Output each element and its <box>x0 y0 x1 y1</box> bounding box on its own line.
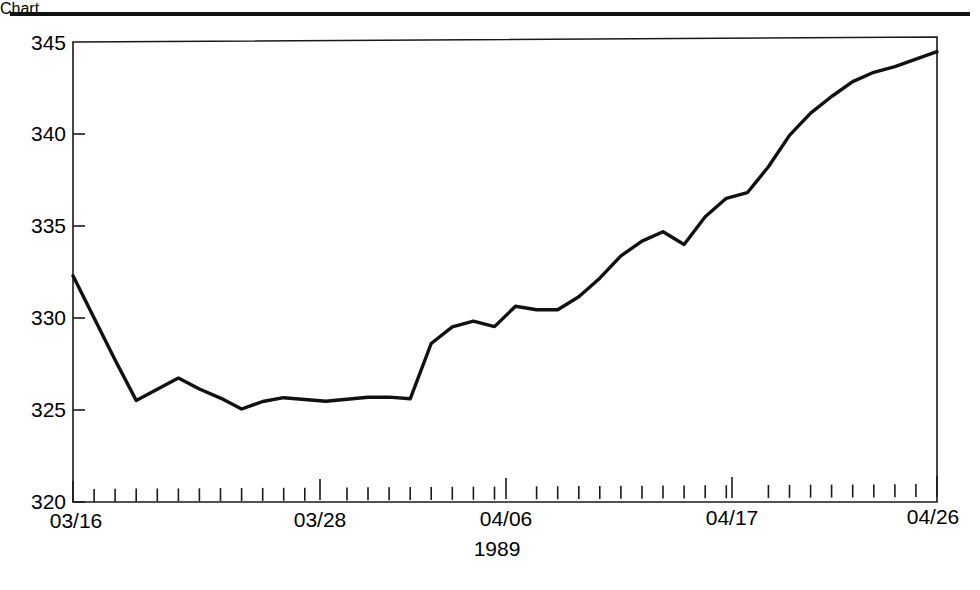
plot-frame <box>73 37 937 502</box>
y-axis-ticks <box>73 134 85 502</box>
x-axis-caption: 1989 <box>474 537 521 560</box>
y-tick-label: 345 <box>31 31 66 54</box>
x-axis-minor-ticks <box>94 484 916 502</box>
figure-container: 345 340 335 330 325 320 03/16 03/28 04/0… <box>0 0 980 590</box>
x-tick-label: 04/26 <box>907 505 960 528</box>
x-tick-label: 04/06 <box>480 507 533 530</box>
x-tick-label: 04/17 <box>706 506 759 529</box>
x-axis-major-ticks <box>73 476 937 502</box>
line-chart: 345 340 335 330 325 320 03/16 03/28 04/0… <box>0 0 980 590</box>
y-tick-label: 330 <box>31 306 66 329</box>
x-tick-label: 03/28 <box>294 508 347 531</box>
y-axis-tick-labels: 345 340 335 330 325 320 <box>31 31 66 513</box>
x-axis-tick-labels: 03/16 03/28 04/06 04/17 04/26 <box>50 505 960 532</box>
data-series-line <box>73 52 937 409</box>
plot-frame-path <box>73 37 937 502</box>
y-tick-label: 335 <box>31 214 66 237</box>
y-tick-label: 340 <box>31 122 66 145</box>
y-tick-label: 325 <box>31 398 66 421</box>
x-tick-label: 03/16 <box>50 509 103 532</box>
